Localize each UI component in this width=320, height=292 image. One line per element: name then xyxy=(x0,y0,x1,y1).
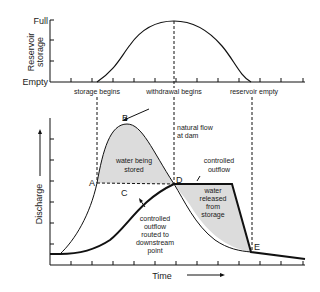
reservoir-empty-label: reservoir empty xyxy=(230,88,279,96)
released-text-3: from xyxy=(206,203,220,210)
top-storage-chart: Full Empty Reservoir storage storage beg… xyxy=(22,16,305,96)
top-x-ticks xyxy=(71,78,303,82)
natural-flow-text-2: at dam xyxy=(177,132,199,139)
storage-label: storage xyxy=(35,37,45,67)
point-c: C xyxy=(121,188,128,198)
controlled-outflow-text-1: controlled xyxy=(204,157,234,164)
stored-text-1: water being xyxy=(115,157,152,165)
bottom-discharge-chart: Discharge Time A B C D E natural flow at… xyxy=(34,109,305,281)
controlled-outflow-text-2: outflow xyxy=(208,166,231,173)
routed-text-1: controlled xyxy=(140,215,170,222)
point-e: E xyxy=(254,242,260,252)
empty-label: Empty xyxy=(22,77,48,87)
natural-flow-text-1: natural flow xyxy=(177,124,214,131)
stored-text-2: stored xyxy=(124,166,144,173)
routed-text-5: point xyxy=(147,247,162,255)
reservoir-hydrograph-diagram: Full Empty Reservoir storage storage beg… xyxy=(0,0,320,292)
released-text-2: released xyxy=(200,195,227,202)
point-a: A xyxy=(89,178,95,188)
routed-text-4: downstream xyxy=(136,239,174,246)
controlled-outflow-pointer xyxy=(197,176,200,181)
controlled-outflow-curve xyxy=(50,184,305,259)
storage-begins-label: storage begins xyxy=(74,88,120,96)
discharge-label: Discharge xyxy=(34,184,44,225)
point-b: B xyxy=(122,113,128,123)
point-d: D xyxy=(176,175,183,185)
released-text-1: water xyxy=(203,187,222,194)
routed-text-2: outflow xyxy=(144,223,167,230)
released-text-4: storage xyxy=(201,211,224,219)
routed-text-3: routed to xyxy=(141,231,169,238)
full-label: Full xyxy=(33,16,48,26)
withdrawal-begins-label: withdrawal begins xyxy=(145,88,202,96)
time-label: Time xyxy=(152,271,172,281)
stored-water-area xyxy=(97,124,174,184)
